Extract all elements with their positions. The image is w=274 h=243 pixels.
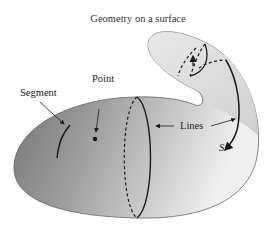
label-point: Point (92, 73, 114, 84)
point-dot (93, 137, 97, 141)
label-segment: Segment (20, 87, 57, 98)
label-s: S (219, 142, 225, 153)
surface-diagram: Geometry on a surface Segment Point Line… (0, 0, 274, 243)
diagram-title: Geometry on a surface (90, 13, 186, 24)
label-lines: Lines (180, 120, 203, 131)
